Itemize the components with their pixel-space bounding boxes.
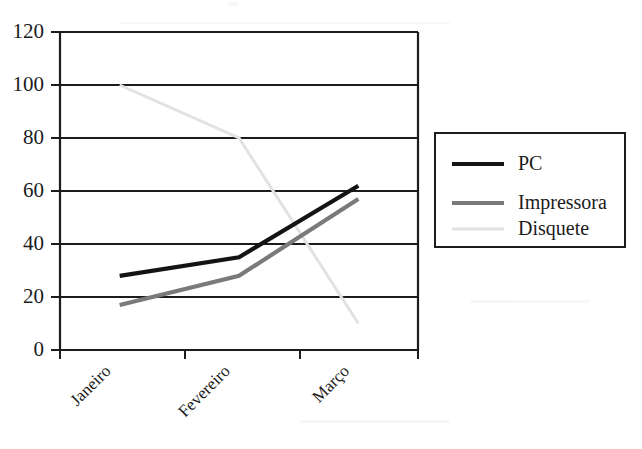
legend-label-disquete: Disquete xyxy=(518,217,589,240)
y-tick-label-100: 100 xyxy=(13,72,45,96)
y-tick-label-80: 80 xyxy=(23,125,44,149)
y-tick-label-60: 60 xyxy=(23,178,44,202)
legend: PCImpressoraDisquete xyxy=(435,133,625,247)
y-tick-label-0: 0 xyxy=(34,337,45,361)
line-chart-figure: 020406080100120 JaneiroFevereiroMarço PC… xyxy=(0,0,642,449)
chart-canvas: 020406080100120 JaneiroFevereiroMarço PC… xyxy=(0,0,642,449)
y-tick-label-120: 120 xyxy=(13,19,45,43)
legend-label-impressora: Impressora xyxy=(518,191,607,214)
y-tick-label-20: 20 xyxy=(23,284,44,308)
legend-label-pc: PC xyxy=(518,152,542,174)
y-tick-label-40: 40 xyxy=(23,231,44,255)
